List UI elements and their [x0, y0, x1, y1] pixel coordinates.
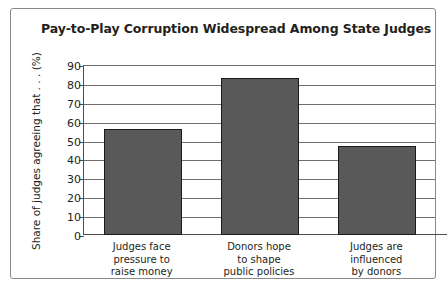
x-axis-category-label: Judges face pressure to raise money	[83, 241, 200, 279]
y-axis-tick-label: 60	[41, 116, 81, 129]
y-axis-tick-label: 80	[41, 78, 81, 91]
bar	[221, 78, 299, 235]
y-axis-tick-label: 70	[41, 97, 81, 110]
plot-area: 0102030405060708090	[83, 65, 435, 235]
y-axis-tick-label: 30	[41, 173, 81, 186]
x-axis-category-label: Donors hope to shape public policies	[200, 241, 317, 279]
x-axis-category-label: Judges are influenced by donors	[318, 241, 435, 279]
chart-frame: Pay-to-Play Corruption Widespread Among …	[10, 8, 436, 279]
chart-title: Pay-to-Play Corruption Widespread Among …	[41, 21, 431, 36]
bar	[338, 146, 416, 235]
y-axis-tick-label: 10	[41, 211, 81, 224]
bar	[104, 129, 182, 235]
y-axis-tick-label: 50	[41, 135, 81, 148]
y-axis-tick-label: 20	[41, 192, 81, 205]
y-axis-tick-label: 0	[41, 230, 81, 243]
y-axis-tick-label: 40	[41, 154, 81, 167]
y-axis-tick-label: 90	[41, 60, 81, 73]
